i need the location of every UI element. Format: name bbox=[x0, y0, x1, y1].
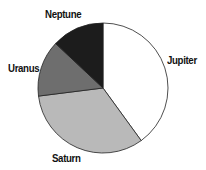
label-saturn: Saturn bbox=[52, 152, 81, 164]
pie-chart bbox=[0, 0, 206, 170]
label-uranus: Uranus bbox=[8, 62, 39, 74]
label-jupiter: Jupiter bbox=[167, 54, 197, 66]
label-neptune: Neptune bbox=[45, 8, 81, 20]
